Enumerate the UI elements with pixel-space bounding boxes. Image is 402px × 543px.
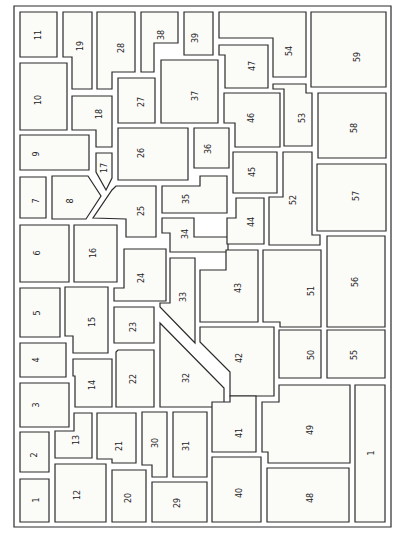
parcel-55[interactable]: 55 [327,330,385,378]
parcel-group: 1119283839101827375459474653589172636455… [20,12,386,522]
parcel-shape[interactable] [112,470,146,522]
parcel-2[interactable]: 2 [20,432,49,472]
parcel-51[interactable]: 51 [263,250,321,327]
parcel-shape[interactable] [20,135,89,170]
parcel-27[interactable]: 27 [118,78,155,123]
parcel-15[interactable]: 15 [65,287,108,353]
parcel-21[interactable]: 21 [97,413,136,463]
parcel-17[interactable]: 17 [96,153,112,190]
parcel-44[interactable]: 44 [227,198,264,244]
parcel-49[interactable]: 49 [262,385,350,463]
parcel-shape[interactable] [116,350,154,407]
parcel-43[interactable]: 43 [200,250,258,322]
parcel-11[interactable]: 11 [20,12,57,57]
parcel-shape[interactable] [118,128,188,180]
parcel-shape[interactable] [152,482,207,522]
parcel-4[interactable]: 4 [20,343,66,377]
parcel-58[interactable]: 58 [318,93,386,158]
parcel-shape[interactable] [184,12,213,55]
parcel-shape[interactable] [233,152,277,193]
parcel-shape[interactable] [161,60,218,123]
parcel-30[interactable]: 30 [142,412,167,477]
parcel-7[interactable]: 7 [20,177,46,218]
parcel-39[interactable]: 39 [184,12,213,55]
parcel-map: 1119283839101827375459474653589172636455… [0,0,402,543]
parcel-9[interactable]: 9 [20,135,89,170]
parcel-50[interactable]: 50 [279,330,321,378]
parcel-shape[interactable] [55,464,106,522]
parcel-shape[interactable] [73,359,112,407]
parcel-6[interactable]: 6 [20,225,69,282]
parcel-16[interactable]: 16 [74,225,117,282]
parcel-shape[interactable] [317,164,386,231]
parcel-shape[interactable] [74,225,117,282]
parcel-45[interactable]: 45 [233,152,277,193]
parcel-37[interactable]: 37 [161,60,218,123]
parcel-29[interactable]: 29 [152,482,207,522]
parcel-14[interactable]: 14 [73,359,112,407]
parcel-shape[interactable] [263,250,321,327]
parcel-shape[interactable] [20,63,67,130]
parcel-shape[interactable] [20,225,69,282]
parcel-shape[interactable] [318,93,386,158]
parcel-shape[interactable] [194,128,229,168]
parcel-shape[interactable] [20,479,49,522]
parcel-shape[interactable] [279,330,321,378]
parcel-shape[interactable] [355,385,385,522]
parcel-shape[interactable] [96,153,112,190]
parcel-shape[interactable] [327,330,385,378]
parcel-34[interactable]: 34 [162,218,228,252]
parcel-3[interactable]: 3 [20,383,69,427]
parcel-shape[interactable] [52,176,101,219]
parcel-shape[interactable] [162,218,228,252]
parcel-23[interactable]: 23 [114,307,154,343]
parcel-shape[interactable] [97,413,136,463]
parcel-shape[interactable] [200,250,258,322]
parcel-8[interactable]: 8 [52,176,101,219]
parcel-shape[interactable] [327,236,385,327]
parcel-shape[interactable] [219,45,268,88]
parcel-24[interactable]: 24 [114,249,166,301]
parcel-shape[interactable] [118,78,155,123]
parcel-shape[interactable] [20,288,60,337]
parcel-48[interactable]: 48 [267,468,349,522]
parcel-56[interactable]: 56 [327,236,385,327]
parcel-20[interactable]: 20 [112,470,146,522]
parcel-shape[interactable] [20,383,69,427]
parcel-40[interactable]: 40 [212,457,261,522]
parcel-shape[interactable] [142,412,167,477]
parcel-12[interactable]: 12 [55,464,106,522]
parcel-22[interactable]: 22 [116,350,154,407]
parcel-26[interactable]: 26 [118,128,188,180]
parcel-47[interactable]: 47 [219,45,268,88]
parcel-57[interactable]: 57 [317,164,386,231]
parcel-shape[interactable] [173,412,207,477]
parcel-5[interactable]: 5 [20,288,60,337]
parcel-shape[interactable] [224,93,280,147]
parcel-shape[interactable] [114,249,166,301]
parcel-shape[interactable] [311,12,386,87]
parcel-35[interactable]: 35 [162,176,227,213]
parcel-shape[interactable] [20,343,66,377]
parcel-31[interactable]: 31 [173,412,207,477]
parcel-shape[interactable] [114,307,154,343]
parcel-shape[interactable] [227,198,264,244]
parcel-shape[interactable] [20,12,57,57]
parcel-shape[interactable] [262,385,350,463]
parcel-1[interactable]: 1 [355,385,385,522]
parcel-36[interactable]: 36 [194,128,229,168]
parcel-shape[interactable] [20,177,46,218]
parcel-shape[interactable] [212,457,261,522]
parcel-59[interactable]: 59 [311,12,386,87]
parcel-shape[interactable] [267,468,349,522]
parcel-shape[interactable] [65,287,108,353]
parcel-41[interactable]: 41 [212,396,256,452]
parcel-shape[interactable] [162,176,227,213]
parcel-46[interactable]: 46 [224,93,280,147]
parcel-shape[interactable] [212,396,256,452]
parcel-10[interactable]: 10 [20,63,67,130]
parcel-shape[interactable] [20,432,49,472]
parcel-1[interactable]: 1 [20,479,49,522]
